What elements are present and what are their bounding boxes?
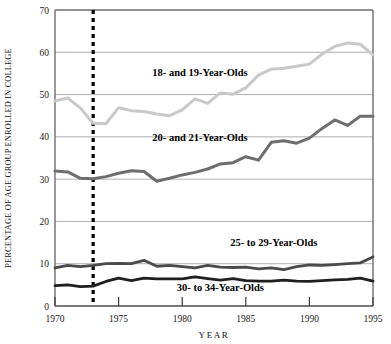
chart-svg: 197019751980198519901995 010203040506070…	[0, 0, 391, 344]
annotation-1: 18- and 19-Year-Olds	[152, 67, 247, 78]
y-tick-label: 0	[44, 302, 49, 312]
y-tick-label: 40	[40, 132, 50, 142]
x-tick-label: 1990	[300, 314, 319, 324]
annotation-2: 20- and 21-Year-Olds	[152, 132, 247, 143]
x-tick-label: 1980	[173, 314, 192, 324]
plot-background	[55, 10, 373, 306]
x-tick-label: 1995	[364, 314, 383, 324]
annotation-3: 25- to 29-Year-Olds	[230, 237, 317, 248]
y-tick-label: 50	[40, 90, 50, 100]
y-tick-label: 10	[40, 259, 50, 269]
x-tick-label: 1985	[236, 314, 255, 324]
x-axis-title: YEAR	[199, 330, 230, 340]
annotation-4: 30- to 34-Year-Olds	[177, 282, 264, 293]
y-axis-title: PERCENTAGE OF AGE GROUP ENROLLED IN COLL…	[4, 48, 13, 268]
x-tick-label: 1970	[46, 314, 65, 324]
x-tick-labels: 197019751980198519901995	[46, 314, 383, 324]
y-tick-labels: 010203040506070	[40, 6, 50, 312]
y-tick-label: 20	[40, 217, 50, 227]
chart-figure: 197019751980198519901995 010203040506070…	[0, 0, 391, 344]
y-tick-label: 30	[40, 175, 50, 185]
y-tick-label: 70	[40, 6, 50, 16]
x-tick-label: 1975	[109, 314, 128, 324]
y-tick-label: 60	[40, 48, 50, 58]
